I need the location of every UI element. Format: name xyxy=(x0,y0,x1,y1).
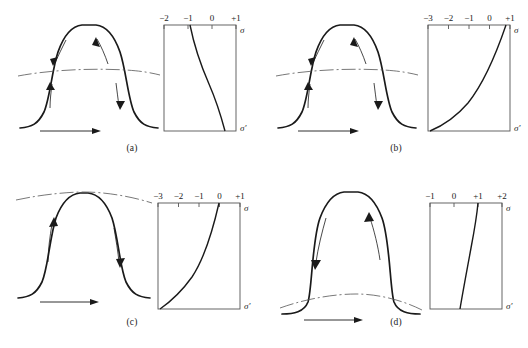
chart-ticks-d xyxy=(430,203,502,207)
terrain-profile-c xyxy=(18,193,150,298)
arrowheads-d xyxy=(311,212,374,270)
panel-b: −3 −2 −1 0 +1 σ σ′ (b) xyxy=(264,0,528,174)
streamline-arrows-a xyxy=(50,39,119,108)
panel-caption-c: (c) xyxy=(0,317,264,327)
sigma-prime-axis-label: σ′ xyxy=(240,123,247,133)
arrowheads-a xyxy=(46,37,125,110)
xtick-label: 0 xyxy=(487,13,492,23)
chart-frame-b xyxy=(428,25,510,131)
sigma-prime-axis-label: σ′ xyxy=(244,301,251,311)
xtick-label: +1 xyxy=(505,13,515,23)
panel-caption-a: (a) xyxy=(0,143,264,153)
chart-frame-c xyxy=(158,203,240,309)
streamline-arrows-b xyxy=(308,39,377,108)
chart-curve-d xyxy=(460,203,478,309)
panel-caption-b: (b) xyxy=(264,143,528,153)
wind-direction-arrow-c xyxy=(40,299,99,305)
chart-b: −3 −2 −1 0 +1 σ σ′ xyxy=(423,13,521,133)
sigma-reference-line-b xyxy=(276,69,418,76)
xtick-label: −3 xyxy=(153,191,163,201)
xtick-label: +2 xyxy=(497,191,507,201)
xtick-label: 0 xyxy=(452,191,457,201)
xtick-label: −2 xyxy=(159,13,169,23)
streamline-arrows-c xyxy=(48,224,119,262)
chart-ticks-b xyxy=(428,25,510,29)
panel-c: −3 −2 −1 0 +1 σ σ′ (c) xyxy=(0,174,264,348)
panel-caption-d: (d) xyxy=(264,317,528,327)
xtick-label: −1 xyxy=(183,13,193,23)
xtick-label: −2 xyxy=(174,191,184,201)
xtick-label: +1 xyxy=(235,191,245,201)
xtick-label: 0 xyxy=(217,191,222,201)
chart-a: −2 −1 0 +1 σ σ′ xyxy=(159,13,247,133)
sigma-reference-line-d xyxy=(280,294,422,310)
chart-c: −3 −2 −1 0 +1 σ σ′ xyxy=(153,191,251,311)
chart-curve-c xyxy=(160,203,219,309)
xtick-label: −3 xyxy=(423,13,433,23)
sigma-axis-label: σ xyxy=(244,203,249,213)
chart-ticks-a xyxy=(164,25,236,29)
sigma-prime-axis-label: σ′ xyxy=(506,301,513,311)
xtick-label: −1 xyxy=(425,191,435,201)
terrain-profile-d xyxy=(282,192,420,314)
wind-direction-arrow-b xyxy=(298,128,359,134)
panel-a: −2 −1 0 +1 σ σ′ (a) xyxy=(0,0,264,174)
chart-curve-a xyxy=(190,25,225,131)
sigma-axis-label: σ xyxy=(240,25,245,35)
chart-d: −1 0 +1 +2 σ σ′ xyxy=(425,191,513,311)
xtick-label: −1 xyxy=(194,191,204,201)
sigma-axis-label: σ xyxy=(514,25,519,35)
xtick-label: 0 xyxy=(210,13,215,23)
streamline-arrows-d xyxy=(316,218,380,262)
terrain-profile-a xyxy=(20,25,158,128)
figure-root: −2 −1 0 +1 σ σ′ (a) xyxy=(0,0,528,348)
xtick-label: −2 xyxy=(444,13,454,23)
wind-direction-arrow-a xyxy=(40,128,101,134)
xtick-label: −1 xyxy=(464,13,474,23)
chart-frame-d xyxy=(430,203,502,309)
xtick-label: +1 xyxy=(231,13,241,23)
chart-curve-b xyxy=(430,25,506,131)
xtick-label: +1 xyxy=(473,191,483,201)
sigma-prime-axis-label: σ′ xyxy=(514,123,521,133)
panel-d: −1 0 +1 +2 σ σ′ (d) xyxy=(264,174,528,348)
terrain-profile-b xyxy=(278,25,416,128)
arrowheads-b xyxy=(304,37,383,110)
chart-ticks-c xyxy=(158,203,240,207)
sigma-axis-label: σ xyxy=(506,203,511,213)
chart-frame-a xyxy=(164,25,236,131)
sigma-reference-line-a xyxy=(18,69,160,76)
